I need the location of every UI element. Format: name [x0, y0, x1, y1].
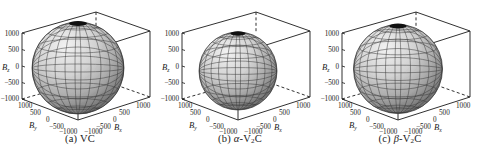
panel-b-caption-index: (b) [218, 133, 231, 144]
axis-y-label-a: By [29, 120, 37, 131]
plot-a-svg: 1000 500 0 −500 −1000 Bz 1000 5 [0, 0, 160, 137]
svg-text:500: 500 [168, 46, 179, 54]
axis-x-label-b: Bx [274, 122, 282, 133]
panel-c-plot: 1000 500 0 −500 −1000 Bz 1000 500 [320, 0, 480, 137]
svg-text:0: 0 [335, 63, 339, 71]
svg-text:−1000: −1000 [161, 95, 180, 103]
plot-b-svg: 1000 500 0 −500 −1000 Bz 1000 500 [160, 0, 320, 137]
svg-text:1000: 1000 [325, 30, 340, 38]
svg-text:500: 500 [279, 109, 290, 117]
panel-b-plot: 1000 500 0 −500 −1000 Bz 1000 500 [160, 0, 320, 137]
panel-c-caption-name: -V2C [399, 133, 421, 144]
svg-text:−500: −500 [164, 79, 179, 87]
axis-x-label-a: Bx [114, 122, 122, 133]
panel-a: 1000 500 0 −500 −1000 Bz 1000 5 [0, 0, 160, 161]
svg-text:1000: 1000 [456, 102, 471, 110]
svg-text:500: 500 [350, 109, 361, 117]
svg-text:0: 0 [175, 63, 179, 71]
svg-text:0: 0 [15, 63, 19, 71]
sphere-a-polar-cap [69, 21, 87, 26]
panel-c-caption: (c) β-V2C [320, 133, 480, 147]
svg-text:−500: −500 [324, 79, 339, 87]
sphere-b [199, 31, 277, 110]
svg-text:−1000: −1000 [321, 95, 340, 103]
panel-b-caption: (b) α-V2C [160, 133, 320, 147]
axis-z-label-b: Bz [162, 62, 170, 73]
figure-three-3d-sphere-panels: 1000 500 0 −500 −1000 Bz 1000 5 [0, 0, 480, 161]
axis-z-label-c: Bz [322, 62, 330, 73]
sphere-c [354, 24, 443, 114]
svg-text:500: 500 [119, 109, 130, 117]
svg-text:500: 500 [190, 109, 201, 117]
svg-text:−500: −500 [4, 79, 19, 87]
panel-b-caption-name: -V2C [239, 133, 261, 144]
axis-z-label-a: Bz [2, 62, 10, 73]
axis-z-tickmarks-a [22, 33, 25, 100]
svg-text:−500: −500 [96, 123, 111, 131]
plot-c-svg: 1000 500 0 −500 −1000 Bz 1000 500 [320, 0, 480, 137]
svg-text:1000: 1000 [5, 30, 20, 38]
panel-c: 1000 500 0 −500 −1000 Bz 1000 500 [320, 0, 480, 161]
svg-text:−500: −500 [256, 123, 271, 131]
axis-y-label-c: By [349, 120, 357, 131]
svg-text:−500: −500 [416, 123, 431, 131]
panel-c-caption-index: (c) [379, 133, 391, 144]
svg-text:1000: 1000 [296, 102, 311, 110]
svg-text:500: 500 [8, 46, 19, 54]
axis-y-label-b: By [189, 120, 197, 131]
panel-a-plot: 1000 500 0 −500 −1000 Bz 1000 5 [0, 0, 160, 137]
svg-text:1000: 1000 [165, 30, 180, 38]
axis-x-label-c: Bx [434, 122, 442, 133]
sphere-a [32, 21, 124, 114]
panel-b: 1000 500 0 −500 −1000 Bz 1000 500 [160, 0, 320, 161]
svg-text:500: 500 [328, 46, 339, 54]
svg-text:500: 500 [439, 109, 450, 117]
svg-text:1000: 1000 [136, 102, 151, 110]
panel-a-caption: (a) VC [0, 133, 160, 145]
axis-z-tickmarks-c [342, 33, 345, 100]
sphere-c-polar-cap [389, 24, 406, 29]
panel-a-caption-text: (a) VC [65, 133, 95, 144]
sphere-b-polar-cap [230, 31, 245, 35]
svg-text:−1000: −1000 [1, 95, 20, 103]
svg-text:500: 500 [30, 109, 41, 117]
